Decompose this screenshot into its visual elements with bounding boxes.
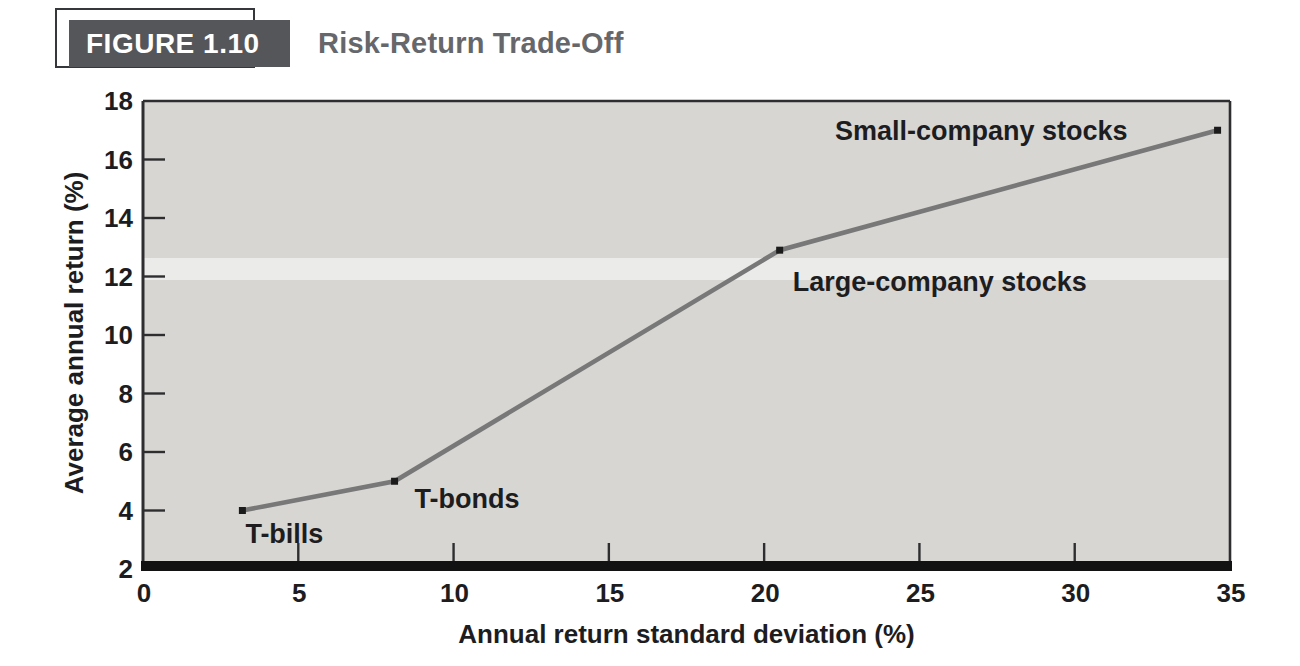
x-tick-label: 35	[1217, 578, 1246, 608]
figure-title: Risk-Return Trade-Off	[318, 27, 624, 60]
y-tick-label: 6	[119, 437, 133, 467]
x-tick-label: 20	[751, 578, 780, 608]
x-axis-title: Annual return standard deviation (%)	[458, 619, 915, 649]
x-tick-label: 0	[137, 578, 151, 608]
x-tick-label: 25	[906, 578, 935, 608]
data-point-label: Large-company stocks	[793, 267, 1087, 297]
y-axis-title: Average annual return (%)	[59, 172, 89, 495]
data-point-label: Small-company stocks	[835, 116, 1128, 146]
y-tick-label: 4	[119, 496, 134, 526]
data-point-label: T-bonds	[415, 484, 520, 514]
data-point-marker	[239, 507, 246, 514]
y-tick-label: 8	[119, 379, 133, 409]
x-tick-label: 5	[292, 578, 306, 608]
y-tick-label: 14	[104, 203, 133, 233]
data-point-marker	[391, 478, 398, 485]
figure-page: T-billsT-bondsLarge-company stocksSmall-…	[0, 0, 1300, 666]
data-point-label: T-bills	[245, 519, 323, 549]
figure-number-label: FIGURE 1.10	[86, 28, 260, 59]
y-tick-label: 18	[104, 86, 133, 116]
y-tick-label: 2	[119, 554, 133, 584]
x-tick-label: 10	[440, 578, 469, 608]
y-tick-label: 12	[104, 262, 133, 292]
figure-badge: FIGURE 1.10	[69, 20, 290, 67]
y-tick-label: 16	[104, 145, 133, 175]
x-tick-label: 15	[595, 578, 624, 608]
y-tick-label: 10	[104, 320, 133, 350]
risk-return-chart: T-billsT-bondsLarge-company stocksSmall-…	[0, 0, 1300, 666]
data-point-marker	[776, 247, 783, 254]
x-tick-label: 30	[1061, 578, 1090, 608]
data-point-marker	[1214, 127, 1221, 134]
scan-light-band	[0, 258, 1300, 280]
